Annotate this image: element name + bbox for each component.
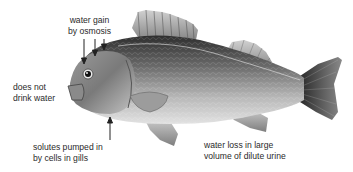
tail-fin	[300, 57, 342, 120]
label-water-loss-line1: water loss in large	[204, 140, 286, 151]
label-solutes-line1: solutes pumped in	[33, 142, 103, 153]
label-water-gain-line2: by osmosis	[68, 26, 111, 37]
dorsal-fin	[132, 10, 198, 40]
fish-head	[68, 51, 135, 114]
label-water-gain: water gain by osmosis	[68, 15, 111, 36]
solutes-arrow	[108, 117, 113, 140]
label-water-gain-line1: water gain	[68, 15, 111, 26]
label-solutes-line2: by cells in gills	[33, 153, 103, 164]
label-does-not-drink: does not drink water	[13, 82, 55, 103]
label-does-not-drink-line2: drink water	[13, 93, 55, 104]
label-solutes-pumped: solutes pumped in by cells in gills	[33, 142, 103, 163]
label-does-not-drink-line1: does not	[13, 82, 55, 93]
label-water-loss: water loss in large volume of dilute uri…	[204, 140, 286, 161]
label-water-loss-line2: volume of dilute urine	[204, 151, 286, 162]
